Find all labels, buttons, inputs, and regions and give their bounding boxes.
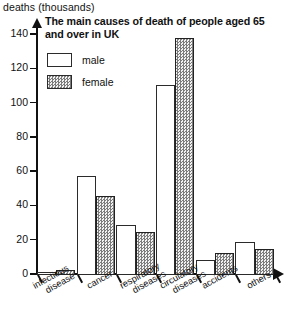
y-axis-tick-label: 80 [0, 130, 28, 142]
bar-series-group [37, 26, 275, 275]
x-axis-category-labels: infectiousdiseasecancerrespiratorydiseas… [0, 278, 292, 330]
y-axis-caption: deaths (thousands) [3, 1, 95, 13]
y-axis-tick-label: 140 [0, 27, 28, 39]
y-axis-tick-label: 60 [0, 164, 28, 176]
y-axis-tick-label: 100 [0, 96, 28, 108]
bar-chart: deaths (thousands) 020406080100120140 Th… [0, 0, 292, 330]
bar-female [96, 196, 115, 275]
bar-male [156, 85, 175, 275]
bar-male [116, 225, 135, 275]
bar-male [77, 176, 96, 275]
y-axis-tick-label: 20 [0, 233, 28, 245]
bar-female [175, 38, 194, 275]
y-axis-tick-label: 120 [0, 61, 28, 73]
y-axis-tick-label: 40 [0, 198, 28, 210]
